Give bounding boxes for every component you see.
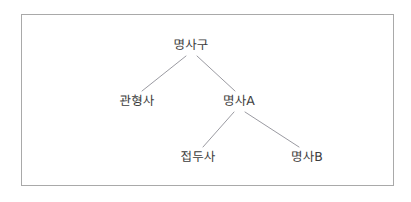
tree-node-determiner: 관형사 [120,95,155,108]
tree-node-np: 명사구 [174,39,209,52]
tree-node-label: 접두사 [181,151,216,164]
tree-node-label: 관형사 [120,95,155,108]
tree-node-label: 명사구 [174,39,209,52]
tree-node-noun-b: 명사B [291,151,323,164]
tree-node-label: 명사B [291,151,323,164]
figure-container: 명사구 관형사 명사A 접두사 명사B [0,0,411,202]
tree-node-noun-a: 명사A [223,95,255,108]
tree-node-prefix: 접두사 [181,151,216,164]
tree-node-label: 명사A [223,95,255,108]
